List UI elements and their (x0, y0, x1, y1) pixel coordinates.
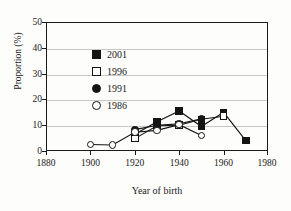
series-markers (0, 0, 291, 211)
data-point-1991-1950 (198, 115, 206, 123)
data-point-1996-1960 (220, 112, 228, 120)
data-point-2001-1950 (198, 123, 206, 131)
data-point-1986-1920 (131, 128, 139, 136)
data-point-1986-1900 (87, 141, 95, 149)
data-point-1986-1930 (153, 127, 161, 135)
chart-figure: 50 40 30 20 10 0 1880 1900 1920 1940 196… (0, 0, 291, 211)
data-point-2001-1940 (175, 107, 183, 115)
data-point-1986-1950 (198, 132, 206, 140)
data-point-1996-1920 (131, 135, 139, 143)
data-point-2001-1970 (242, 137, 250, 145)
data-point-1986-1910 (109, 141, 117, 149)
